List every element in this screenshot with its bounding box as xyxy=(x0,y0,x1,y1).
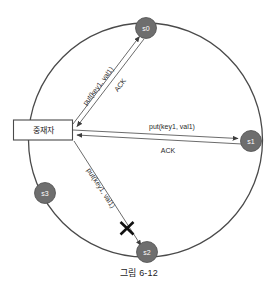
node-s3[interactable]: s3 xyxy=(35,183,56,204)
edge-line-s1-request xyxy=(73,130,238,139)
edge-label-s1-request: put(key1, val1) xyxy=(149,123,195,131)
node-s2-label: s2 xyxy=(143,249,151,256)
node-s1-label: s1 xyxy=(247,138,255,145)
edge-line-s0-ack xyxy=(77,39,144,127)
node-s0-label: s0 xyxy=(142,25,150,32)
node-s1[interactable]: s1 xyxy=(241,131,262,152)
figure-container: 중재자 s0 s1 s2 s3 put(key1, val1) ACK put(… xyxy=(0,0,278,290)
node-s2[interactable]: s2 xyxy=(137,242,158,263)
edge-label-s1-ack: ACK xyxy=(161,147,176,154)
node-s3-label: s3 xyxy=(41,190,49,197)
consensus-diagram: 중재자 s0 s1 s2 s3 put(key1, val1) ACK put(… xyxy=(0,0,278,290)
edge-line-s1-ack xyxy=(77,135,242,144)
figure-caption: 그림 6-12 xyxy=(0,266,278,279)
node-s0[interactable]: s0 xyxy=(136,18,157,39)
edge-label-s0-request: put(key1, val1) xyxy=(81,66,115,107)
edge-label-s2-request: put(key1, val1) xyxy=(85,167,117,210)
coordinator-label: 중재자 xyxy=(33,126,55,135)
edge-label-s0-ack: ACK xyxy=(113,77,127,93)
